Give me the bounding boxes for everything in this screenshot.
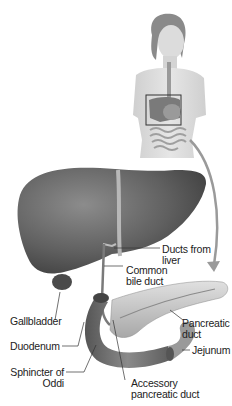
label-sphincter-of-oddi: Sphincter of Oddi bbox=[10, 367, 64, 389]
label-duodenum: Duodenum bbox=[10, 341, 60, 352]
label-pancreatic-duct: Pancreatic duct bbox=[182, 318, 230, 340]
label-gallbladder: Gallbladder bbox=[10, 316, 62, 327]
label-common-bile-duct: Common bile duct bbox=[126, 265, 167, 287]
label-jejunum: Jejunum bbox=[192, 345, 230, 356]
label-accessory-pancreatic-duct: Accessory pancreatic duct bbox=[131, 378, 199, 400]
label-ducts-from-liver: Ducts from liver bbox=[162, 244, 211, 266]
anatomy-diagram: Ducts from liver Common bile duct Gallbl… bbox=[0, 0, 232, 406]
gallbladder bbox=[52, 274, 72, 290]
torso-figure bbox=[133, 14, 206, 158]
duodenum-opening bbox=[93, 293, 109, 303]
